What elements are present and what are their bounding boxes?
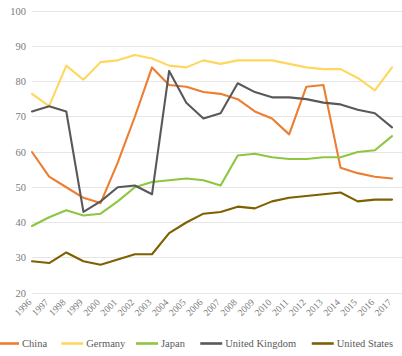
x-tick-label: 1997 [30, 297, 51, 318]
x-tick-label: 2017 [373, 297, 394, 318]
data-series [32, 55, 392, 265]
x-tick-label: 2010 [253, 297, 274, 318]
x-tick-label: 2000 [81, 297, 102, 318]
y-tick-label: 70 [16, 111, 27, 122]
x-tick-label: 2011 [270, 297, 290, 317]
x-tick-label: 2014 [321, 297, 342, 318]
y-tick-label: 50 [16, 182, 27, 193]
x-tick-label: 2006 [184, 297, 205, 318]
x-tick-label: 1998 [47, 297, 68, 318]
y-tick-label: 40 [16, 217, 27, 228]
y-tick-label: 90 [16, 41, 27, 52]
x-tick-label: 2013 [304, 297, 325, 318]
x-tick-label: 1999 [64, 297, 85, 318]
y-tick-label: 100 [10, 6, 26, 17]
x-tick-label: 2005 [167, 297, 188, 318]
x-tick-label: 1996 [13, 297, 34, 318]
chart-legend: ChinaGermanyJapanUnited KingdomUnited St… [0, 338, 393, 349]
y-tick-label: 80 [16, 76, 27, 87]
y-tick-label: 60 [16, 147, 27, 158]
x-tick-label: 2004 [150, 297, 171, 318]
x-tick-label: 2009 [236, 297, 257, 318]
series-line-united-states [32, 193, 392, 265]
legend-label-united-kingdom: United Kingdom [225, 338, 296, 349]
y-tick-label: 20 [16, 288, 27, 299]
x-tick-label: 2016 [356, 297, 377, 318]
gridlines [32, 11, 402, 293]
legend-label-germany: Germany [86, 338, 126, 349]
x-tick-label: 2002 [116, 297, 137, 318]
legend-label-japan: Japan [161, 338, 186, 349]
legend-label-china: China [22, 338, 47, 349]
x-tick-label: 2003 [133, 297, 154, 318]
series-line-germany [32, 55, 392, 106]
y-tick-label: 30 [16, 252, 27, 263]
x-tick-label: 2001 [99, 297, 120, 318]
chart-canvas: 1009080706050403020 19961997199819992000… [0, 0, 402, 356]
x-tick-label: 2012 [287, 297, 308, 318]
x-axis-tick-labels: 1996199719981999200020012002200320042005… [13, 297, 394, 318]
x-tick-label: 2007 [201, 297, 222, 318]
x-tick-label: 2008 [219, 297, 240, 318]
legend-label-united-states: United States [337, 338, 393, 349]
y-axis-tick-labels: 1009080706050403020 [10, 6, 26, 299]
line-chart: 1009080706050403020 19961997199819992000… [0, 0, 402, 356]
x-tick-label: 2015 [339, 297, 360, 318]
